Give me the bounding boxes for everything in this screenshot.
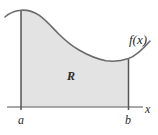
function-label: f(x) xyxy=(129,33,147,46)
area-under-curve-figure: f(x) R a b x xyxy=(0,0,158,135)
shaded-region-R xyxy=(21,10,129,107)
x-axis-label: x xyxy=(145,103,150,115)
region-label: R xyxy=(67,70,75,82)
upper-limit-label: b xyxy=(125,114,131,126)
lower-limit-label: a xyxy=(18,114,24,126)
